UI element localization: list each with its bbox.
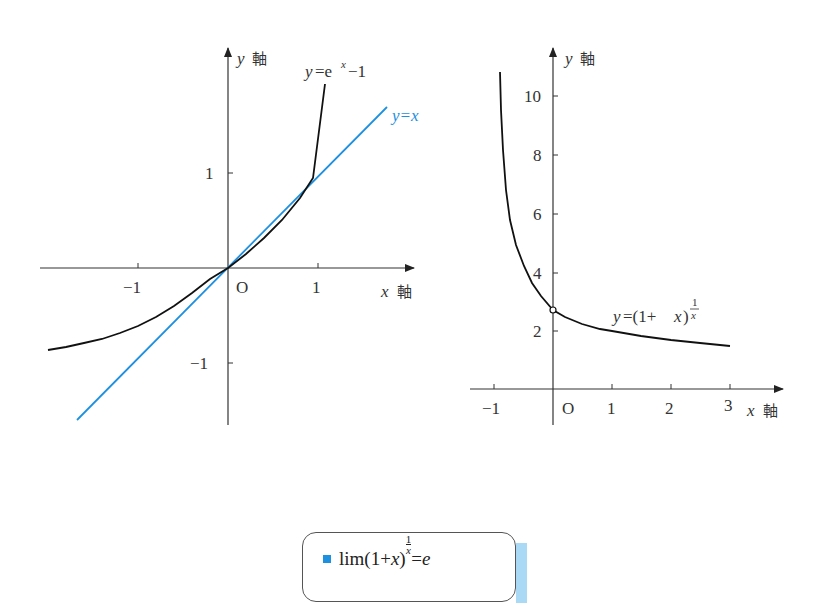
hole-point (550, 307, 556, 313)
bullet-square-icon (323, 555, 331, 563)
exp-curve-label-eq: =e (315, 62, 332, 81)
right-xtick-label-m1: −1 (482, 399, 500, 418)
exp-curve-label-tail: −1 (348, 62, 366, 81)
right-ytick-label-4: 4 (533, 264, 542, 283)
pow-curve-label-num: 1 (692, 296, 698, 308)
right-chart: −1 1 2 3 O 2 4 6 8 10 y 軸 x 軸 y =(1+ x )… (470, 48, 783, 425)
formula-box: lim(1+x)1x=e (302, 532, 516, 602)
left-xtick-label-1: 1 (312, 278, 321, 297)
left-chart: −1 1 1 −1 O y 軸 x 軸 y =e x −1 y=x (40, 48, 419, 425)
formula-base: (1+ (364, 548, 391, 569)
pow-curve-label-close: ) (683, 307, 689, 326)
pow-curve-label-y: y (611, 307, 621, 326)
line-label-y-equals-x: y=x (390, 106, 419, 125)
right-origin-label: O (562, 399, 574, 418)
formula-exp-num: 1 (406, 534, 412, 544)
formula-box-shadow (516, 543, 527, 603)
left-y-axis-kanji: 軸 (252, 50, 267, 68)
left-y-axis-var: y (235, 49, 245, 68)
line-y-equals-x (77, 107, 387, 420)
left-x-axis-kanji: 軸 (397, 283, 412, 301)
right-xtick-label-1: 1 (607, 399, 616, 418)
exp-curve-label-y: y (303, 62, 313, 81)
left-origin-label: O (236, 278, 248, 297)
formula-text: lim(1+x)1x=e (323, 545, 430, 570)
right-xtick-label-3: 3 (724, 396, 733, 415)
formula-exp-den: x (406, 544, 412, 555)
right-x-axis-var: x (746, 401, 755, 420)
right-y-axis-var: y (563, 49, 573, 68)
right-x-axis-kanji: 軸 (763, 402, 778, 420)
left-x-axis-var: x (380, 282, 389, 301)
formula-result: e (422, 548, 430, 569)
formula-eq: = (411, 548, 422, 569)
formula-lim: lim (339, 548, 364, 569)
right-ytick-label-6: 6 (533, 205, 542, 224)
right-y-axis-kanji: 軸 (580, 50, 595, 68)
right-xtick-label-2: 2 (665, 399, 674, 418)
pow-curve-label-x: x (673, 307, 682, 326)
right-ytick-label-2: 2 (533, 322, 542, 341)
left-ytick-label-1: 1 (205, 164, 214, 183)
exp-curve-label-sup: x (340, 58, 346, 70)
right-ytick-label-8: 8 (533, 146, 542, 165)
pow-curve-label-eq: =(1+ (623, 307, 656, 326)
left-xtick-label-m1: −1 (123, 278, 141, 297)
right-ytick-label-10: 10 (524, 87, 541, 106)
left-ytick-label-m1: −1 (190, 354, 208, 373)
formula-exponent: 1x (406, 534, 412, 555)
pow-curve-label-den: x (690, 309, 696, 321)
